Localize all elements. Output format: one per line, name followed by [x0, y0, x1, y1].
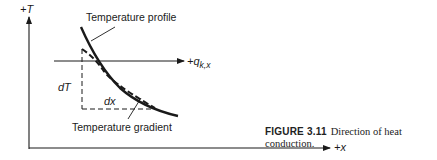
heat-flux-label: +qk,x	[187, 55, 211, 70]
profile-leader-line	[91, 27, 115, 41]
dT-label: dT	[58, 81, 72, 93]
tangent-dashed-line	[82, 49, 155, 108]
temperature-profile-label: Temperature profile	[86, 11, 177, 23]
y-axis-label: +T	[20, 3, 34, 15]
figure-number: FIGURE 3.11	[265, 126, 327, 137]
dx-label: dx	[104, 95, 116, 107]
temperature-gradient-label: Temperature gradient	[72, 121, 172, 133]
figure-caption: FIGURE 3.11Direction of heat conduction.	[265, 126, 435, 150]
temperature-profile-curve	[81, 27, 178, 116]
